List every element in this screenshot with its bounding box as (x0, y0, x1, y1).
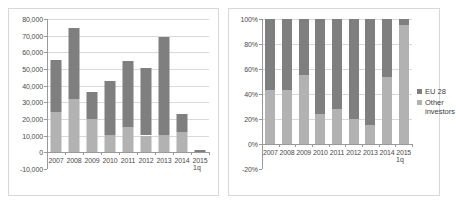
stacked-bar (177, 19, 188, 169)
y-axis-tick-label: 80,000 (22, 16, 43, 23)
bar-segment-other-investors (69, 99, 80, 153)
x-axis-tick-label: 2007 (263, 149, 278, 156)
y-axis-tick-label: 10,000 (22, 132, 43, 139)
chart-absolute-values: 80,00070,00060,00050,00040,00030,00020,0… (8, 8, 219, 196)
bar-segment-other-investors (365, 125, 375, 144)
y-axis-tick-label: 20% (244, 116, 258, 123)
bar-group: 2009 (83, 19, 101, 169)
bar-group: 2008 (279, 19, 296, 169)
x-axis-tick-label: 2007 (49, 157, 64, 164)
y-axis-tick-label: -10,000 (20, 166, 43, 173)
bar-segment-other-investors (315, 114, 325, 144)
bar-group: 2009 (295, 19, 312, 169)
quarter-note-percentage: 1q (396, 156, 404, 163)
bar-group: 2007 (262, 19, 279, 169)
bar-segment-other-investors (177, 132, 188, 153)
y-axis-tick-label: 40% (244, 91, 258, 98)
bar-group: 2012 (345, 19, 362, 169)
legend-swatch-eu-28 (417, 89, 422, 94)
bar-segment-eu-28 (265, 19, 275, 90)
stacked-bar (69, 19, 80, 169)
y-axis-tick-label: 40,000 (22, 82, 43, 89)
x-axis-tick-label: 2009 (85, 157, 100, 164)
stacked-bar (159, 19, 170, 169)
x-axis-percentage (262, 144, 412, 145)
stacked-bar (315, 19, 325, 169)
bar-series-percentage: 200720082009201020112012201320142015 (262, 19, 412, 169)
stacked-bar (349, 19, 359, 169)
bar-segment-other-investors (282, 90, 292, 144)
bar-segment-other-investors (332, 109, 342, 144)
stacked-bar (123, 19, 134, 169)
x-axis-tick-label: 2008 (67, 157, 82, 164)
bar-segment-eu-28 (349, 19, 359, 119)
stacked-bar (51, 19, 62, 169)
bar-segment-eu-28 (105, 81, 116, 136)
bar-group: 2007 (47, 19, 65, 169)
stacked-bar (399, 19, 409, 169)
bar-series-absolute: 200720082009201020112012201320142015 (47, 19, 209, 169)
stacked-bar (299, 19, 309, 169)
bar-segment-other-investors (159, 135, 170, 153)
legend-swatch-other-investors (417, 100, 422, 105)
x-axis-tick-label: 2015 (396, 149, 411, 156)
legend-item-other-investors: Other investors (417, 98, 455, 117)
x-axis-tick-label: 2009 (296, 149, 311, 156)
plot-area-absolute: 80,00070,00060,00050,00040,00030,00020,0… (47, 19, 209, 169)
x-axis-tick-label: 2011 (330, 149, 344, 156)
y-axis-tick-label: 100% (240, 16, 258, 23)
x-axis-tick-label: 2011 (121, 157, 135, 164)
stacked-bar (105, 19, 116, 169)
stacked-bar (265, 19, 275, 169)
y-axis-tick-mark (259, 169, 262, 170)
legend: EU 28 Other investors (417, 87, 455, 118)
x-axis-absolute (47, 152, 209, 153)
bar-group: 2013 (362, 19, 379, 169)
figure-container: 80,00070,00060,00050,00040,00030,00020,0… (0, 0, 456, 207)
bar-segment-eu-28 (177, 114, 188, 132)
stacked-bar (365, 19, 375, 169)
bar-segment-eu-28 (382, 19, 392, 77)
bar-segment-eu-28 (315, 19, 325, 114)
plot-area-percentage: 100%80%60%40%20%0%-20% 20072008200920102… (262, 19, 412, 169)
y-axis-tick-label: 70,000 (22, 32, 43, 39)
y-axis-percentage (262, 19, 263, 169)
x-axis-tick-label: 2012 (346, 149, 361, 156)
bar-segment-eu-28 (365, 19, 375, 125)
y-axis-tick-label: 0 (39, 149, 43, 156)
bar-segment-other-investors (382, 77, 392, 145)
x-axis-tick-label: 2014 (175, 157, 190, 164)
x-axis-tick-label: 2013 (363, 149, 378, 156)
bar-group: 2015 (191, 19, 209, 169)
x-axis-tick-label: 2010 (103, 157, 118, 164)
y-axis-absolute (47, 19, 48, 169)
bar-group: 2011 (119, 19, 137, 169)
bar-segment-other-investors (141, 136, 152, 153)
chart-percentage-shares: 100%80%60%40%20%0%-20% 20072008200920102… (228, 8, 440, 196)
y-axis-tick-label: 50,000 (22, 66, 43, 73)
y-axis-tick-label: 20,000 (22, 116, 43, 123)
bar-segment-other-investors (51, 112, 62, 152)
bar-segment-other-investors (105, 135, 116, 152)
bar-segment-eu-28 (51, 60, 62, 112)
bar-segment-eu-28 (159, 37, 170, 135)
y-axis-tick-label: -20% (242, 166, 258, 173)
bar-segment-other-investors (265, 90, 275, 144)
bar-segment-eu-28 (299, 19, 309, 75)
bar-segment-eu-28 (141, 68, 152, 136)
legend-label-eu-28: EU 28 (425, 87, 446, 97)
y-axis-tick-label: 80% (244, 41, 258, 48)
x-axis-tick-label: 2008 (280, 149, 295, 156)
y-axis-tick-label: 30,000 (22, 99, 43, 106)
quarter-note-absolute: 1q (193, 164, 201, 171)
y-axis-tick-label: 0% (248, 141, 258, 148)
x-axis-tick-label: 2013 (157, 157, 172, 164)
stacked-bar (382, 19, 392, 169)
bar-segment-eu-28 (123, 61, 134, 127)
bar-segment-other-investors (349, 119, 359, 144)
stacked-bar (87, 19, 98, 169)
stacked-bar (141, 19, 152, 169)
bar-segment-eu-28 (87, 92, 98, 120)
bar-group: 2010 (101, 19, 119, 169)
bar-segment-other-investors (87, 119, 98, 152)
